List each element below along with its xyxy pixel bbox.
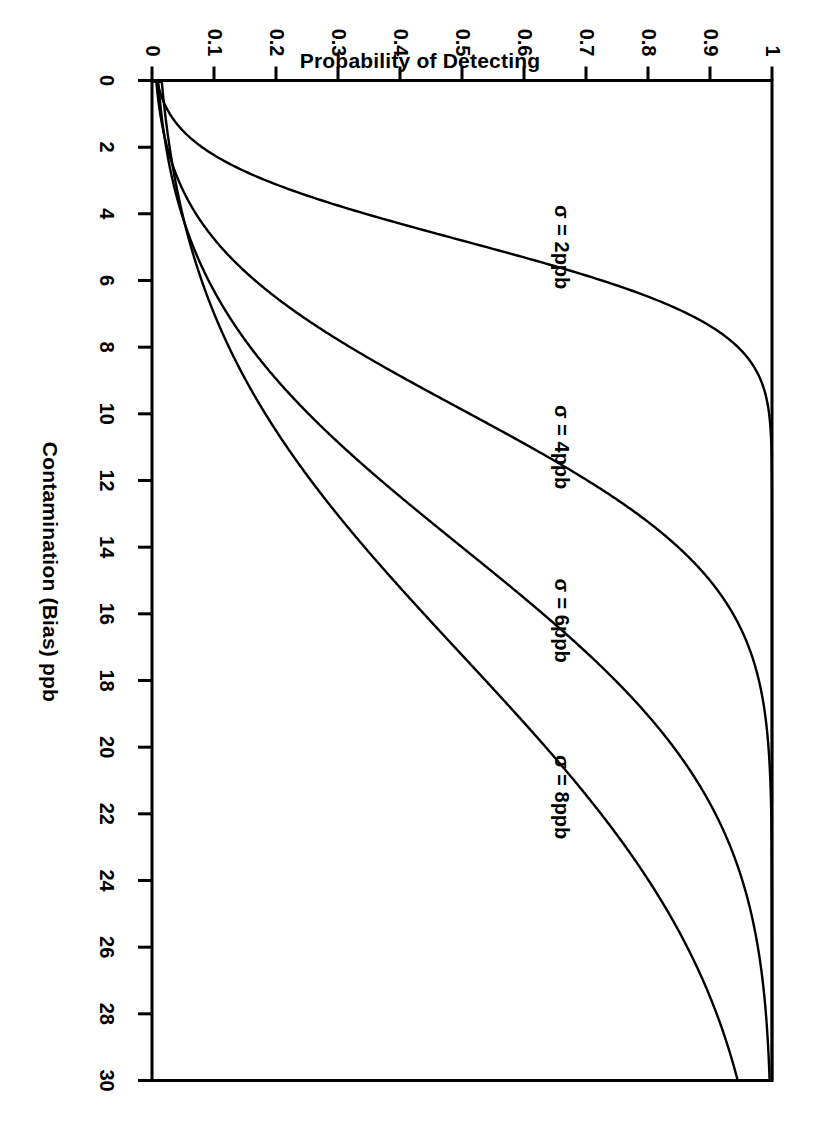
- x-tick-label: 10: [95, 402, 118, 424]
- x-tick-label: 16: [95, 602, 118, 624]
- series-annotation-1: σ = 4ppb: [550, 405, 573, 489]
- curve-sigma-8: [152, 80, 738, 1080]
- figure-stage: 024681012141618202224262830 00.10.20.30.…: [0, 0, 832, 1143]
- y-tick-label: 0.8: [637, 0, 660, 56]
- series-annotation-2: σ = 6ppb: [550, 578, 573, 662]
- x-tick-label: 0: [95, 74, 118, 85]
- series-annotation-0: σ = 2ppb: [550, 205, 573, 289]
- series-annotation-3: σ = 8ppb: [550, 755, 573, 839]
- x-axis-ticks: [138, 80, 152, 1080]
- x-tick-label: 2: [95, 141, 118, 152]
- x-tick-label: 24: [95, 869, 118, 891]
- y-tick-label: 0.9: [699, 0, 722, 56]
- x-tick-label: 6: [95, 274, 118, 285]
- chart-canvas: [0, 0, 832, 1143]
- x-tick-label: 14: [95, 536, 118, 558]
- x-tick-label: 18: [95, 669, 118, 691]
- x-tick-label: 30: [95, 1069, 118, 1091]
- y-axis-title: Probability of Detecting: [270, 48, 570, 72]
- x-tick-label: 8: [95, 341, 118, 352]
- x-tick-label: 26: [95, 936, 118, 958]
- y-tick-label: 0: [141, 0, 164, 56]
- x-tick-label: 20: [95, 736, 118, 758]
- plot-area: 024681012141618202224262830 00.10.20.30.…: [0, 0, 832, 1143]
- y-tick-label: 0.1: [203, 0, 226, 56]
- x-tick-label: 22: [95, 802, 118, 824]
- data-curves: [152, 80, 772, 1080]
- x-tick-label: 28: [95, 1002, 118, 1024]
- y-tick-label: 0.7: [575, 0, 598, 56]
- x-tick-label: 12: [95, 469, 118, 491]
- y-tick-label: 1: [761, 0, 784, 56]
- x-axis-title: Contamination (Bias) ppb: [38, 0, 62, 1143]
- x-tick-label: 4: [95, 208, 118, 219]
